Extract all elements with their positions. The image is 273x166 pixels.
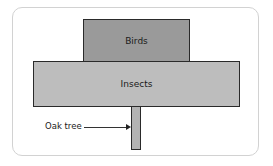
- level-birds-label: Birds: [125, 36, 148, 46]
- level-insects-label: Insects: [121, 79, 153, 89]
- level-birds: Birds: [83, 19, 190, 62]
- level-insects: Insects: [33, 61, 240, 107]
- level-oak-tree: [131, 106, 141, 150]
- oak-tree-label: Oak tree: [45, 121, 82, 131]
- arrow-line: [84, 127, 129, 128]
- arrow-head-icon: [126, 124, 131, 130]
